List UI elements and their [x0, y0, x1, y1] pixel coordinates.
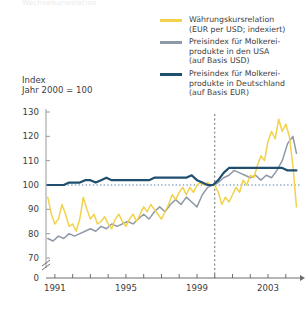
series-line-germany — [48, 168, 297, 185]
y-tick-label-zero: 0 — [34, 273, 39, 283]
y-tick-label: 110 — [23, 156, 39, 166]
chart-figure: Wechselkursrelation Währungskursrelation… — [0, 0, 306, 316]
series-line-usa — [48, 136, 297, 241]
y-tick-label: 80 — [28, 229, 39, 239]
x-tick-label: 1999 — [186, 283, 208, 293]
y-tick-label: 70 — [28, 253, 39, 263]
x-tick-label: 1995 — [115, 283, 137, 293]
y-tick-label: 130 — [23, 107, 39, 117]
chart-plot: 70809010011012013001991199519992003 — [0, 0, 306, 316]
x-tick-label: 1991 — [44, 283, 66, 293]
x-tick-label: 2003 — [257, 283, 279, 293]
x-axis-arrow-icon — [300, 275, 305, 281]
series-line-currency — [48, 119, 297, 231]
y-tick-label: 100 — [23, 180, 39, 190]
y-tick-label: 90 — [28, 204, 39, 214]
y-tick-label: 120 — [23, 131, 39, 141]
